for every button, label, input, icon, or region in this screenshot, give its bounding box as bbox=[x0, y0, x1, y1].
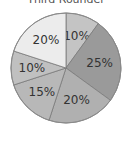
slice-label: 25% bbox=[86, 56, 113, 70]
pie-chart: 10%25%20%15%10%20% bbox=[0, 0, 132, 142]
slice-label: 15% bbox=[29, 85, 56, 99]
slice-label: 10% bbox=[19, 61, 46, 75]
slice-label: 20% bbox=[63, 93, 90, 107]
slice-label: 20% bbox=[33, 33, 60, 47]
